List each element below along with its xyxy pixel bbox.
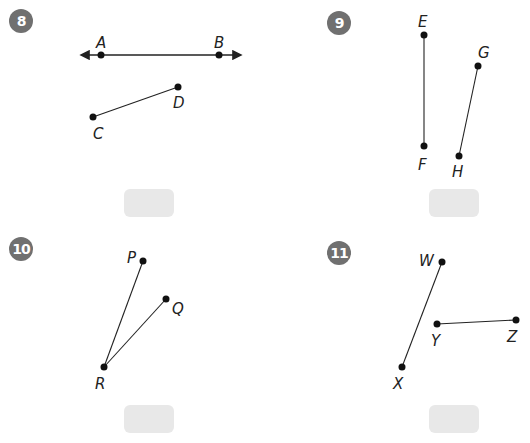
problem-8-figure: A B C D xyxy=(82,34,240,143)
label-P: P xyxy=(127,249,137,267)
point-Q xyxy=(163,296,170,303)
label-W: W xyxy=(419,252,435,270)
label-D: D xyxy=(173,94,185,112)
segment-RP xyxy=(104,261,143,367)
point-E xyxy=(421,32,428,39)
label-Q: Q xyxy=(172,300,184,318)
segment-RQ xyxy=(104,299,166,367)
point-P xyxy=(140,258,147,265)
point-X xyxy=(399,364,406,371)
point-Y xyxy=(434,321,441,328)
segment-WX xyxy=(402,262,442,367)
point-H xyxy=(456,153,463,160)
label-H: H xyxy=(452,163,463,181)
problem-8-answer-box[interactable] xyxy=(124,189,174,217)
label-F: F xyxy=(418,156,427,174)
segment-CD xyxy=(93,87,178,117)
label-R: R xyxy=(95,375,105,393)
point-A xyxy=(98,52,105,59)
problem-10-figure: P Q R xyxy=(95,249,184,393)
label-Z: Z xyxy=(506,328,518,346)
point-R xyxy=(101,364,108,371)
geometry-figures: A B C D E F G H P Q R W X xyxy=(0,0,530,443)
point-C xyxy=(90,114,97,121)
segment-GH xyxy=(459,66,478,156)
problem-11-answer-box[interactable] xyxy=(429,405,479,433)
problem-9-answer-box[interactable] xyxy=(429,189,479,217)
segment-YZ xyxy=(437,320,516,324)
label-C: C xyxy=(93,125,104,143)
point-G xyxy=(475,63,482,70)
point-Z xyxy=(513,317,520,324)
point-B xyxy=(216,52,223,59)
point-D xyxy=(175,84,182,91)
problem-11-figure: W X Y Z xyxy=(392,252,520,393)
problem-10-answer-box[interactable] xyxy=(124,405,174,433)
label-B: B xyxy=(214,34,224,52)
problem-9-figure: E F G H xyxy=(418,13,490,181)
point-W xyxy=(439,259,446,266)
point-F xyxy=(421,143,428,150)
label-G: G xyxy=(478,44,490,62)
label-X: X xyxy=(392,375,404,393)
label-Y: Y xyxy=(431,332,442,350)
label-A: A xyxy=(95,34,106,52)
label-E: E xyxy=(418,13,428,31)
